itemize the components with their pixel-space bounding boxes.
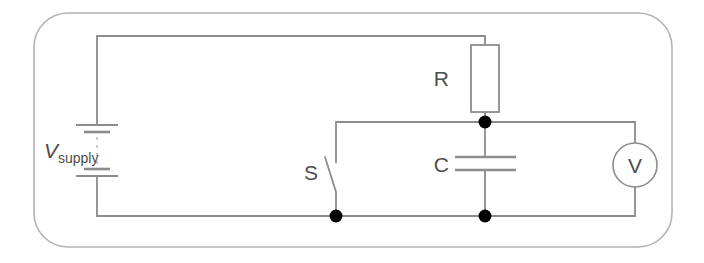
switch-label: S <box>304 161 318 184</box>
circuit-schematic-canvas: Vsupply R C S V <box>0 0 704 263</box>
supply-label: Vsupply <box>44 139 98 166</box>
voltmeter-label: V <box>628 154 642 177</box>
wire-bottom-rail <box>97 176 635 216</box>
resistor-body <box>471 45 499 112</box>
switch-symbol[interactable] <box>325 157 336 216</box>
capacitor-label: C <box>434 153 449 176</box>
wire-top-supply-to-resistor <box>97 36 485 125</box>
junction-node-rc-bottom <box>479 210 492 223</box>
voltmeter-symbol: V <box>613 143 657 187</box>
wire-node-to-voltmeter <box>485 122 635 143</box>
figure-border <box>34 13 672 247</box>
capacitor-symbol <box>455 157 516 170</box>
junction-node-rc-top <box>479 116 492 129</box>
circuit-diagram-figure: Vsupply R C S V <box>0 0 704 263</box>
wire-group <box>97 36 635 216</box>
resistor-symbol <box>471 45 499 112</box>
resistor-label: R <box>434 67 449 90</box>
junction-node-switch-bottom <box>330 210 343 223</box>
switch-blade[interactable] <box>325 157 336 216</box>
supply-label-subscript: supply <box>58 150 98 166</box>
